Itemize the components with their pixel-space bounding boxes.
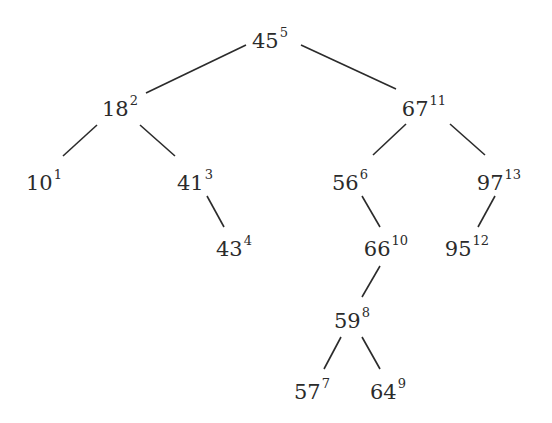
- node-order: 4: [244, 233, 252, 248]
- edge-n45-n18: [146, 45, 246, 93]
- edge-n97-n95: [478, 196, 495, 227]
- node-order: 6: [360, 167, 368, 182]
- tree-node-41: 413: [177, 170, 213, 195]
- node-order: 3: [205, 167, 213, 182]
- node-order: 13: [505, 167, 522, 182]
- node-key: 64: [370, 380, 397, 404]
- node-key: 67: [402, 97, 429, 121]
- node-order: 2: [130, 93, 138, 108]
- node-key: 95: [445, 237, 472, 261]
- tree-node-43: 434: [216, 236, 252, 261]
- edge-n59-n64: [362, 337, 380, 369]
- tree-node-57: 577: [294, 379, 330, 404]
- node-key: 97: [477, 171, 504, 195]
- node-order: 1: [54, 167, 62, 182]
- node-order: 5: [280, 25, 288, 40]
- tree-node-66: 6610: [364, 236, 408, 261]
- tree-node-10: 101: [26, 170, 62, 195]
- node-order: 12: [473, 233, 490, 248]
- tree-diagram: 4551826711101413566971343466109512598577…: [0, 0, 552, 423]
- node-key: 43: [216, 237, 243, 261]
- node-order: 7: [322, 376, 330, 391]
- node-key: 18: [102, 97, 129, 121]
- edge-n45-n67: [301, 45, 396, 89]
- node-key: 45: [252, 29, 279, 53]
- node-key: 57: [294, 380, 321, 404]
- node-order: 8: [362, 305, 370, 320]
- tree-node-45: 455: [252, 28, 288, 53]
- node-key: 59: [334, 309, 361, 333]
- node-order: 9: [398, 376, 406, 391]
- tree-node-64: 649: [370, 379, 406, 404]
- edge-n18-n41: [140, 125, 175, 156]
- node-key: 41: [177, 171, 204, 195]
- node-order: 10: [392, 233, 409, 248]
- tree-node-56: 566: [332, 170, 368, 195]
- node-order: 11: [430, 93, 447, 108]
- edge-n56-n66: [362, 196, 380, 227]
- edge-n41-n43: [207, 196, 224, 227]
- edge-n18-n10: [63, 125, 97, 156]
- node-key: 10: [26, 171, 53, 195]
- edge-n59-n57: [324, 337, 341, 369]
- tree-node-59: 598: [334, 308, 370, 333]
- edge-n67-n97: [450, 124, 485, 155]
- tree-node-67: 6711: [402, 96, 446, 121]
- tree-edges: [0, 0, 552, 423]
- tree-node-18: 182: [102, 96, 138, 121]
- tree-node-95: 9512: [445, 236, 489, 261]
- node-key: 66: [364, 237, 391, 261]
- edge-n67-n56: [373, 124, 406, 155]
- node-key: 56: [332, 171, 359, 195]
- tree-node-97: 9713: [477, 170, 521, 195]
- edge-n66-n59: [362, 266, 380, 297]
